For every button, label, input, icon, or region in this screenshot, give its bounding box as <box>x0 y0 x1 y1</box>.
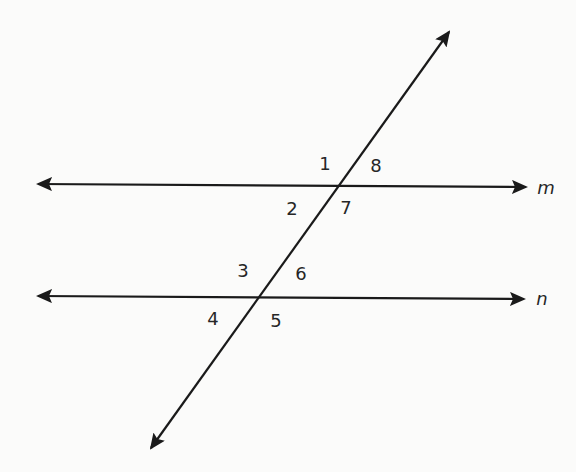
angle-label-8: 8 <box>370 157 381 175</box>
diagram-svg <box>0 0 576 472</box>
angle-label-2: 2 <box>286 200 297 218</box>
angle-label-7: 7 <box>340 199 351 217</box>
line-n <box>38 296 524 299</box>
angle-label-6: 6 <box>295 265 306 283</box>
angle-label-4: 4 <box>207 310 218 328</box>
line-m-label: m <box>537 179 555 197</box>
angle-label-5: 5 <box>270 312 281 330</box>
diagram-canvas: m n 1 8 2 7 3 6 4 5 <box>0 0 576 472</box>
transversal-line <box>151 32 449 448</box>
line-m <box>38 184 526 187</box>
line-n-label: n <box>536 290 547 308</box>
angle-label-1: 1 <box>319 155 330 173</box>
angle-label-3: 3 <box>237 262 248 280</box>
